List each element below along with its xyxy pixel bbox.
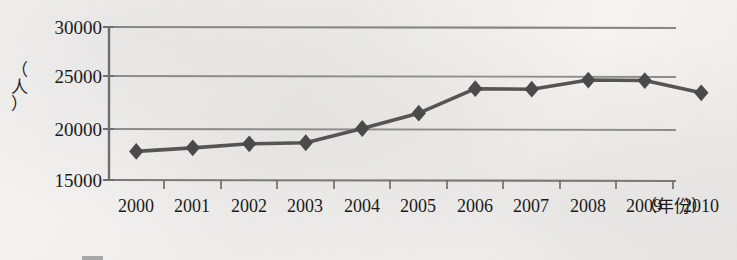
x-tick-label-2001: 2001 xyxy=(162,196,222,216)
data-point-2006 xyxy=(468,80,482,97)
data-series xyxy=(129,72,708,160)
gridline-20000 xyxy=(108,129,676,130)
data-point-2001 xyxy=(186,139,200,156)
data-point-2003 xyxy=(299,134,313,151)
line-chart-figure: （ 人 ） 30000 25000 20000 15000 xyxy=(0,0,737,260)
data-point-2000 xyxy=(129,143,143,160)
data-point-2004 xyxy=(355,120,369,137)
legend-swatch xyxy=(82,256,103,260)
gridline-30000 xyxy=(108,27,676,28)
x-tick-label-2002: 2002 xyxy=(219,196,279,216)
plot-area xyxy=(0,0,737,260)
data-point-2009 xyxy=(638,72,652,89)
x-axis-unit-label: （年份） xyxy=(640,196,735,216)
data-point-2008 xyxy=(581,72,595,89)
chart-page: （ 人 ） 30000 25000 20000 15000 xyxy=(0,0,737,260)
data-point-2005 xyxy=(412,105,426,122)
x-tick-label-2003: 2003 xyxy=(275,196,335,216)
x-tick-label-2006: 2006 xyxy=(445,196,505,216)
x-tick-label-2008: 2008 xyxy=(558,196,618,216)
x-tick-label-2007: 2007 xyxy=(501,196,561,216)
data-point-2002 xyxy=(242,135,256,152)
data-point-2010 xyxy=(694,84,708,101)
x-tick-label-2004: 2004 xyxy=(332,196,392,216)
x-tick-label-2000: 2000 xyxy=(106,196,166,216)
x-tick-label-2005: 2005 xyxy=(388,196,448,216)
data-point-2007 xyxy=(525,81,539,98)
x-axis-line xyxy=(108,180,676,181)
